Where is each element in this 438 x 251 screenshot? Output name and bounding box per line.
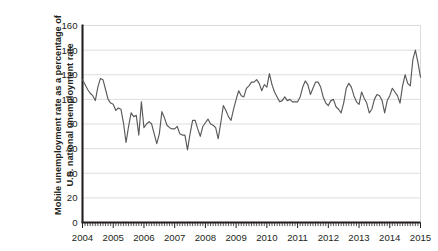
y-tick-label: 100 [61, 94, 77, 105]
x-tick-label: 2013 [348, 232, 369, 243]
x-tick-label: 2007 [164, 232, 185, 243]
x-tick-label: 2005 [103, 232, 124, 243]
y-axis-tick-labels: 020406080100120140160 [61, 20, 77, 228]
y-tick-label: 20 [67, 192, 78, 203]
x-tick-label: 2014 [379, 232, 401, 243]
axis-lines [82, 25, 421, 223]
x-tick-label: 2009 [225, 232, 246, 243]
x-tick-label: 2004 [72, 232, 94, 243]
y-tick-label: 40 [67, 168, 78, 179]
y-tick-label: 60 [67, 143, 78, 154]
y-tick-label: 0 [72, 217, 77, 228]
plot-shell: 020406080100120140160 200420052006200720… [0, 0, 438, 251]
gridlines [83, 26, 421, 223]
x-tick-label: 2008 [195, 232, 216, 243]
chart-figure: Mobile unemployment rate as a percentage… [0, 0, 438, 251]
line-chart: 020406080100120140160 200420052006200720… [0, 0, 438, 251]
y-tick-label: 160 [61, 20, 77, 31]
y-tick-label: 120 [61, 69, 77, 80]
x-tick-label: 2011 [287, 232, 308, 243]
x-axis-tick-labels: 2004200520062007200820092010201120122013… [72, 232, 431, 243]
x-tick-label: 2010 [256, 232, 277, 243]
x-tick-label: 2012 [318, 232, 339, 243]
data-series-line [83, 50, 421, 150]
y-tick-label: 140 [61, 45, 77, 56]
x-tick-label: 2015 [410, 232, 431, 243]
x-tick-label: 2006 [133, 232, 154, 243]
y-tick-label: 80 [67, 118, 78, 129]
